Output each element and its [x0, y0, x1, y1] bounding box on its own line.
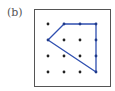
lattice-dot [79, 55, 82, 58]
polygon-outline [48, 24, 96, 72]
lattice-dot [79, 71, 82, 74]
polygon-lattice-dot [79, 23, 82, 26]
lattice-dot [47, 71, 50, 74]
lattice-dot [63, 55, 66, 58]
polygon-lattice-dot [63, 23, 66, 26]
polygon-lattice-dot [95, 23, 98, 26]
polygon-lattice-dot [95, 39, 98, 42]
lattice-dot [63, 39, 66, 42]
lattice-dot [79, 39, 82, 42]
lattice-dot [47, 23, 50, 26]
lattice-dot [63, 71, 66, 74]
polygon-lattice-dot [95, 71, 98, 74]
quadrilateral-shape [48, 24, 96, 72]
polygon-lattice-dot [95, 55, 98, 58]
lattice-dots [47, 23, 98, 74]
lattice-dot [47, 55, 50, 58]
dot-grid-diagram [0, 0, 115, 91]
polygon-lattice-dot [47, 39, 50, 42]
